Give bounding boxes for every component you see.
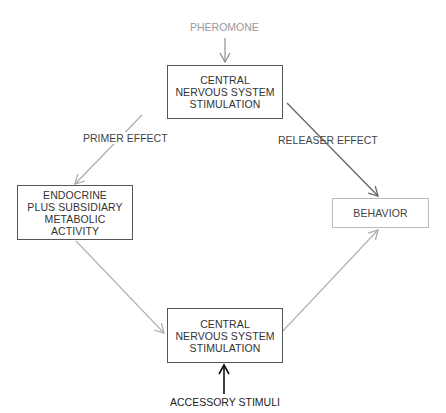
endocrine-to-cns-arrow xyxy=(76,241,164,333)
cns-stimulation-bottom-box: CENTRAL NERVOUS SYSTEM STIMULATION xyxy=(167,308,283,363)
cns-bottom-line-1: CENTRAL xyxy=(200,318,250,330)
cns-top-line-2: NERVOUS SYSTEM xyxy=(175,86,274,98)
accessory-stimuli-label: ACCESSORY STIMULI xyxy=(170,396,280,408)
cns-bottom-line-3: STIMULATION xyxy=(190,342,261,354)
releaser-effect-label: RELEASER EFFECT xyxy=(278,134,378,146)
behavior-box: BEHAVIOR xyxy=(332,198,429,228)
cns-top-line-1: CENTRAL xyxy=(200,74,250,86)
pheromone-label: PHEROMONE xyxy=(190,21,259,33)
cns-top-line-3: STIMULATION xyxy=(190,98,261,110)
cns-stimulation-top-box: CENTRAL NERVOUS SYSTEM STIMULATION xyxy=(167,65,283,119)
cns-bottom-line-2: NERVOUS SYSTEM xyxy=(175,330,274,342)
endocrine-line-1: ENDOCRINE xyxy=(43,189,107,201)
primer-effect-arrow xyxy=(75,115,142,184)
endocrine-line-4: ACTIVITY xyxy=(51,225,99,237)
primer-effect-label: PRIMER EFFECT xyxy=(82,132,169,144)
endocrine-line-3: METABOLIC xyxy=(45,213,106,225)
endocrine-activity-box: ENDOCRINE PLUS SUBSIDIARY METABOLIC ACTI… xyxy=(17,185,133,240)
releaser-effect-arrow xyxy=(287,103,378,196)
behavior-text: BEHAVIOR xyxy=(353,207,407,219)
cns-to-behavior-arrow xyxy=(282,230,378,332)
pheromone-effect-diagram: PHEROMONE CENTRAL NERVOUS SYSTEM STIMULA… xyxy=(0,0,446,413)
endocrine-line-2: PLUS SUBSIDIARY xyxy=(27,201,122,213)
